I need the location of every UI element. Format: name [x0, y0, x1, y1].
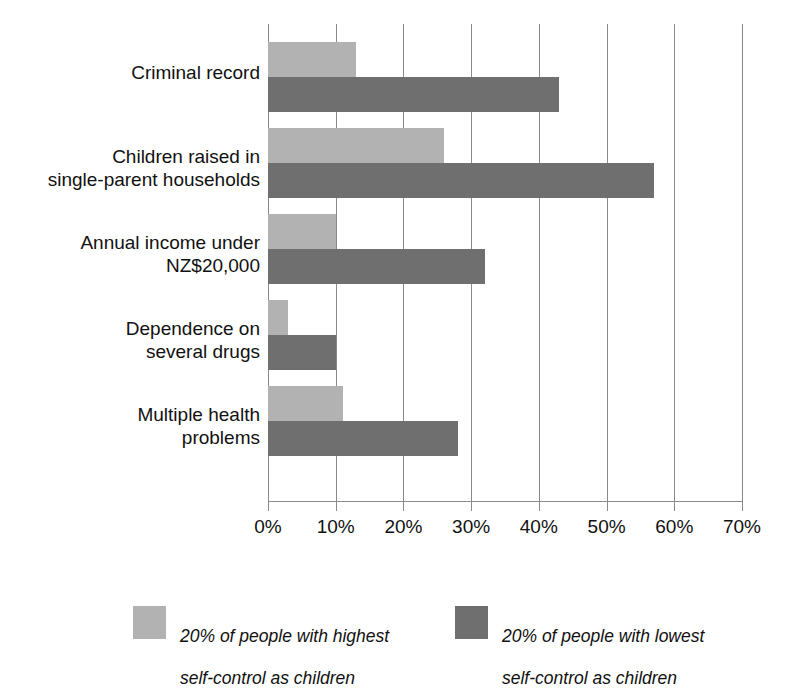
x-axis-line [268, 501, 742, 502]
x-tick-label: 20% [384, 516, 422, 538]
legend-label-line2: self-control as children [180, 668, 389, 688]
bar-highest-self-control [268, 386, 343, 421]
axis-tick [336, 502, 337, 511]
chart-legend: 20% of people with highest self-control … [0, 600, 797, 660]
bar-highest-self-control [268, 300, 288, 335]
axis-tick [539, 502, 540, 511]
x-tick-label: 30% [452, 516, 490, 538]
category-label-multiple-health-problems: Multiple health problems [8, 403, 260, 449]
axis-tick [268, 502, 269, 511]
category-label-line1: Multiple health [8, 403, 260, 426]
plot-area [268, 24, 742, 502]
category-label-line2: several drugs [8, 340, 260, 363]
category-label-line1: Dependence on [8, 317, 260, 340]
x-tick-label: 10% [317, 516, 355, 538]
gridline [674, 24, 675, 502]
category-label-line2: NZ$20,000 [8, 254, 260, 277]
category-label-line2: single-parent households [8, 168, 260, 191]
gridline [607, 24, 608, 502]
legend-label-line1: 20% of people with highest [180, 626, 389, 647]
x-tick-label: 50% [588, 516, 626, 538]
category-label-line1: Criminal record [8, 61, 260, 84]
legend-label: 20% of people with lowest self-control a… [502, 604, 704, 688]
category-label-line2: problems [8, 426, 260, 449]
category-label-criminal-record: Criminal record [8, 61, 260, 84]
category-label-children-single-parent: Children raised in single-parent househo… [8, 145, 260, 191]
x-tick-label: 40% [520, 516, 558, 538]
category-label-line1: Annual income under [8, 231, 260, 254]
legend-label: 20% of people with highest self-control … [180, 604, 389, 688]
bar-highest-self-control [268, 214, 336, 249]
bar-highest-self-control [268, 128, 444, 163]
category-label-drug-dependence: Dependence on several drugs [8, 317, 260, 363]
bar-lowest-self-control [268, 77, 559, 112]
legend-label-line2: self-control as children [502, 668, 704, 688]
category-label-annual-income: Annual income under NZ$20,000 [8, 231, 260, 277]
x-tick-label: 60% [655, 516, 693, 538]
bar-highest-self-control [268, 42, 356, 77]
gridline [742, 24, 743, 502]
bar-lowest-self-control [268, 163, 654, 198]
legend-item-lowest-self-control: 20% of people with lowest self-control a… [455, 604, 704, 688]
bar-lowest-self-control [268, 421, 458, 456]
axis-tick [607, 502, 608, 511]
axis-tick [471, 502, 472, 511]
bar-lowest-self-control [268, 335, 336, 370]
bar-lowest-self-control [268, 249, 485, 284]
x-axis-tick-labels: 0% 10% 20% 30% 40% 50% 60% 70% [268, 516, 742, 546]
category-label-line1: Children raised in [8, 145, 260, 168]
light-gray-swatch-icon [133, 606, 166, 639]
legend-item-highest-self-control: 20% of people with highest self-control … [133, 604, 389, 688]
legend-label-line1: 20% of people with lowest [502, 626, 704, 647]
axis-tick [742, 502, 743, 511]
x-tick-label: 70% [723, 516, 761, 538]
x-tick-label: 0% [254, 516, 281, 538]
axis-tick [674, 502, 675, 511]
axis-tick [403, 502, 404, 511]
dark-gray-swatch-icon [455, 606, 488, 639]
